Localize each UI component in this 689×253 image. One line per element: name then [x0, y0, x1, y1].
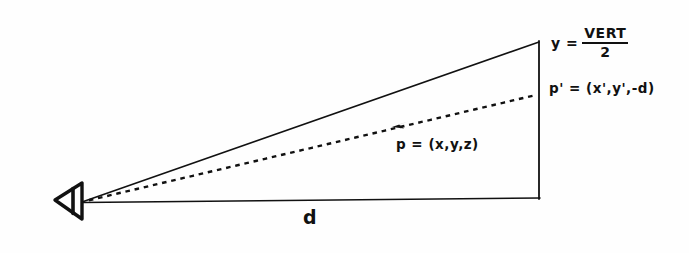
label-y-equals: y =	[551, 35, 578, 51]
eye-icon	[55, 183, 82, 219]
label-y-equals-vert-over-2: y = VERT 2	[551, 26, 628, 59]
optical-axis-line	[82, 198, 540, 203]
upper-frustum-edge	[82, 42, 539, 202]
fraction-vert-over-2: VERT 2	[582, 26, 628, 59]
label-p-coordinates: p = (x,y,z)	[396, 136, 479, 152]
label-distance-d: d	[303, 206, 317, 228]
diagram-figure: y = VERT 2 p' = (x',y',-d) p = (x,y,z) d	[0, 0, 689, 253]
fraction-denominator: 2	[600, 44, 610, 60]
fraction-numerator: VERT	[582, 26, 628, 44]
label-p-prime-coordinates: p' = (x',y',-d)	[549, 80, 655, 96]
